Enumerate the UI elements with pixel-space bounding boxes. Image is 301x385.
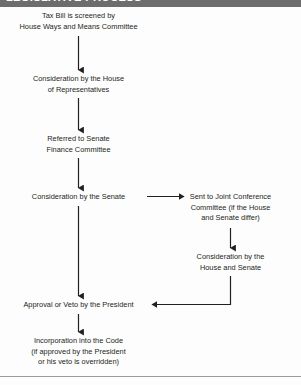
footer-divider xyxy=(0,376,301,377)
node-incorporation-into-code: Incorporation into the Code (if approved… xyxy=(0,336,157,368)
node-senate-finance-referral: Referred to Senate Finance Committee xyxy=(0,134,157,155)
page-header-band: LEGISLATIVE PROCESS xyxy=(0,0,301,7)
page-header-title: LEGISLATIVE PROCESS xyxy=(6,0,142,3)
node-house-senate-consideration: Consideration by the House and Senate xyxy=(160,252,301,273)
flowchart-page: LEGISLATIVE PROCESS xyxy=(0,0,301,385)
edge-housesenate-to-president xyxy=(152,276,231,305)
node-joint-conference: Sent to Joint Conference Committee (if t… xyxy=(160,192,301,224)
node-house-consideration: Consideration by the House of Representa… xyxy=(0,74,157,95)
node-tax-bill-screened: Tax Bill is screened by House Ways and M… xyxy=(0,11,157,32)
node-presidential-approval: Approval or Veto by the President xyxy=(0,300,157,311)
node-senate-consideration: Consideration by the Senate xyxy=(0,192,157,203)
